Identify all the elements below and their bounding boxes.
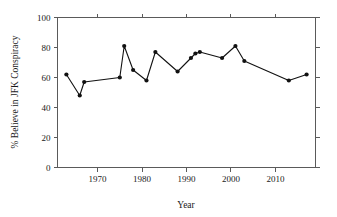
- data-point: [287, 78, 291, 82]
- data-point: [193, 51, 197, 55]
- x-tick-label: 1990: [178, 174, 197, 184]
- data-point: [153, 50, 157, 54]
- y-tick-label: 40: [42, 103, 52, 113]
- y-tick-label: 20: [42, 133, 52, 143]
- data-point: [242, 59, 246, 63]
- data-point: [144, 78, 148, 82]
- x-tick-label: 1980: [133, 174, 152, 184]
- data-point: [82, 80, 86, 84]
- chart-figure: 020406080100 19701980199020002010 Year %…: [0, 0, 337, 217]
- data-point: [131, 68, 135, 72]
- data-point: [122, 44, 126, 48]
- y-tick-label: 0: [46, 163, 51, 173]
- x-axis-title: Year: [177, 200, 195, 210]
- data-point: [198, 50, 202, 54]
- y-tick-label: 80: [42, 43, 52, 53]
- data-point: [78, 93, 82, 97]
- y-tick-label: 60: [42, 73, 52, 83]
- x-tick-label: 1970: [89, 174, 108, 184]
- y-tick-label: 100: [37, 13, 51, 23]
- data-point: [233, 44, 237, 48]
- data-point: [64, 72, 68, 76]
- data-point: [220, 56, 224, 60]
- data-point: [305, 72, 309, 76]
- jfk-conspiracy-line-chart: 020406080100 19701980199020002010 Year %…: [0, 0, 337, 217]
- x-tick-label: 2010: [266, 174, 285, 184]
- data-point: [118, 75, 122, 79]
- y-axis-title: % Believe in JFK Conspiracy: [10, 35, 20, 148]
- data-point: [176, 69, 180, 73]
- x-tick-label: 2000: [222, 174, 241, 184]
- figure-background: [0, 0, 337, 217]
- data-point: [189, 56, 193, 60]
